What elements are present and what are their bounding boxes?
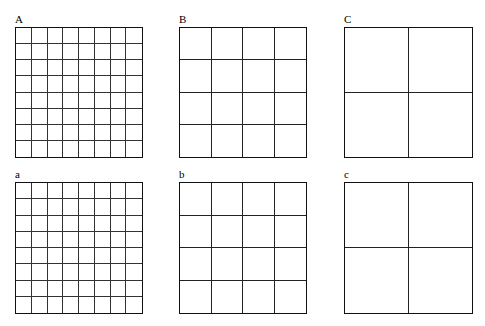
grid-cell [63, 199, 79, 215]
grid-cell [63, 216, 79, 232]
grid-cell [126, 216, 142, 232]
grid-cell [95, 93, 111, 109]
fracture-grid [15, 27, 143, 158]
fracture-grid [344, 27, 473, 158]
grid-cell [409, 183, 473, 248]
grid-cell [16, 44, 32, 60]
grid-cell [79, 28, 95, 44]
grid-cell [126, 141, 142, 157]
grid-cell [126, 297, 142, 313]
grid-cell [32, 281, 48, 297]
grid-cell [16, 109, 32, 125]
grid-cell [126, 109, 142, 125]
grid-cell [63, 141, 79, 157]
grid-cell [95, 297, 111, 313]
grid-cell [63, 264, 79, 280]
grid-cell [79, 125, 95, 141]
grid-cell [95, 76, 111, 92]
grid-cell [275, 281, 307, 314]
grid-cell [16, 199, 32, 215]
grid-cell [212, 93, 244, 125]
grid-cell [345, 93, 409, 158]
grid-cell [126, 199, 142, 215]
grid-cell [275, 28, 307, 60]
grid-cell [95, 216, 111, 232]
grid-cell [95, 44, 111, 60]
grid-cell [111, 297, 127, 313]
panel-label: A [15, 14, 23, 25]
grid-cell [48, 76, 64, 92]
grid-cell [16, 183, 32, 199]
grid-cell [212, 60, 244, 92]
grid-cell [95, 248, 111, 264]
grid-cell [63, 60, 79, 76]
grid-cell [111, 125, 127, 141]
grid-cell [63, 183, 79, 199]
grid-cell [95, 183, 111, 199]
grid-cell [111, 109, 127, 125]
grid-cell [79, 183, 95, 199]
grid-cell [180, 216, 212, 249]
grid-cell [409, 93, 473, 158]
grid-cell [409, 248, 473, 313]
grid-cell [48, 264, 64, 280]
panel-label: c [344, 169, 349, 180]
grid-cell [212, 125, 244, 157]
grid-cell [63, 248, 79, 264]
panel-label: B [179, 14, 186, 25]
grid-cell [79, 44, 95, 60]
grid-cell [95, 60, 111, 76]
grid-cell [126, 183, 142, 199]
grid-cell [345, 248, 409, 313]
grid-cell [16, 264, 32, 280]
grid-cell [63, 93, 79, 109]
grid-cell [345, 28, 409, 93]
grid-cell [79, 248, 95, 264]
grid-cell [111, 44, 127, 60]
grid-cell [16, 125, 32, 141]
grid-cell [95, 281, 111, 297]
grid-cell [95, 109, 111, 125]
grid-cell [48, 60, 64, 76]
grid-cell [32, 44, 48, 60]
grid-cell [243, 60, 275, 92]
grid-cell [48, 232, 64, 248]
grid-cell [126, 248, 142, 264]
grid-cell [243, 93, 275, 125]
grid-cell [111, 183, 127, 199]
grid-cell [48, 199, 64, 215]
grid-cell [16, 76, 32, 92]
grid-cell [16, 232, 32, 248]
grid-cell [111, 232, 127, 248]
grid-cell [32, 60, 48, 76]
grid-cell [48, 141, 64, 157]
grid-cell [126, 28, 142, 44]
grid-cell [275, 216, 307, 249]
grid-cell [32, 297, 48, 313]
grid-cell [243, 216, 275, 249]
grid-cell [32, 248, 48, 264]
fracture-grid [179, 27, 307, 158]
grid-cell [32, 93, 48, 109]
grid-cell [243, 28, 275, 60]
grid-cell [275, 60, 307, 92]
grid-cell [32, 76, 48, 92]
grid-cell [79, 297, 95, 313]
grid-cell [126, 44, 142, 60]
grid-cell [63, 297, 79, 313]
grid-cell [32, 232, 48, 248]
grid-cell [275, 93, 307, 125]
grid-cell [63, 232, 79, 248]
grid-cell [212, 281, 244, 314]
grid-cell [180, 93, 212, 125]
grid-cell [212, 183, 244, 216]
grid-cell [111, 264, 127, 280]
grid-cell [111, 248, 127, 264]
grid-cell [63, 44, 79, 60]
grid-cell [111, 28, 127, 44]
grid-cell [409, 28, 473, 93]
grid-cell [48, 281, 64, 297]
grid-cell [95, 28, 111, 44]
grid-cell [126, 93, 142, 109]
grid-cell [32, 199, 48, 215]
